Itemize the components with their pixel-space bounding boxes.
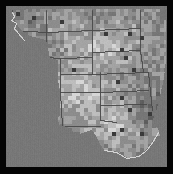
map-frame: Grayscale raster map of the western and … <box>0 0 173 174</box>
raster-map-canvas[interactable] <box>0 0 173 174</box>
